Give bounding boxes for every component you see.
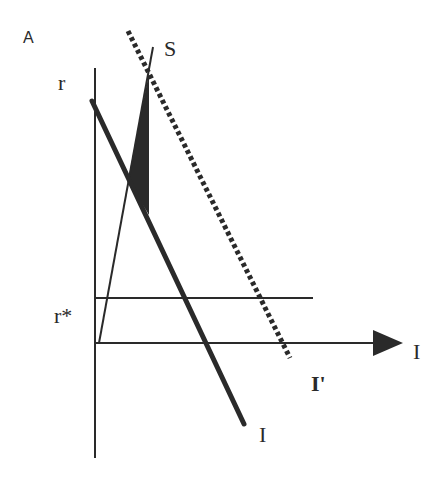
y-axis-label: r [58,70,66,95]
investment-shifted-label: I' [311,371,326,396]
x-axis-label: I [413,339,420,364]
investment-curve [92,101,244,424]
shaded-region [128,73,149,215]
diagram-canvas: A r S r* I I' I [0,0,447,483]
saving-curve-label: S [164,36,176,61]
r-star-label: r* [54,303,72,328]
investment-curve-label: I [259,422,266,447]
panel-label: A [23,29,34,46]
x-axis-arrow-icon [373,330,403,356]
investment-shifted-curve [128,31,290,358]
